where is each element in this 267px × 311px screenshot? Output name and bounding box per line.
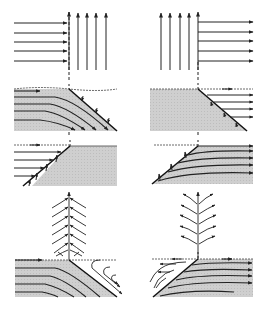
figure-svg: [0, 0, 267, 311]
flow-line: [70, 198, 86, 208]
flow-line: [181, 205, 197, 214]
boundary-arrow: [96, 108, 97, 113]
flow-line: [183, 194, 197, 204]
panel-4-inclined-boundary-outflow: [150, 83, 253, 135]
flow-line: [52, 198, 68, 208]
flow-line: [54, 243, 68, 253]
flow-line: [180, 215, 197, 224]
panel-8-diverging-herringbone: [180, 192, 216, 262]
diagram-figure: [0, 0, 267, 311]
flow-line: [52, 207, 68, 217]
flow-line: [199, 215, 216, 224]
panel-2-vertical-to-uniform: [161, 12, 253, 80]
panel-5-inflow-inclined-face: [14, 140, 117, 186]
flow-line: [70, 243, 84, 253]
flow-line: [199, 226, 216, 234]
flow-line: [70, 250, 82, 256]
flow-line: [52, 234, 68, 244]
flow-line: [52, 225, 68, 235]
flow-line: [52, 216, 68, 226]
panel-1-uniform-to-vertical: [14, 12, 106, 80]
flow-line: [181, 236, 197, 244]
flow-line: [70, 207, 86, 217]
flow-line: [199, 236, 215, 244]
flow-line: [70, 225, 86, 235]
boundary-arrow: [108, 118, 109, 123]
flow-line: [199, 194, 213, 204]
flow-line: [70, 234, 86, 244]
panel-7-converging-herringbone: [52, 192, 86, 262]
flow-line: [199, 205, 215, 214]
panel-6-curved-flow-from-face: [152, 140, 253, 184]
panel-3-inclined-boundary-flow: [14, 84, 117, 135]
flow-line: [180, 226, 197, 234]
flow-line: [70, 216, 86, 226]
panel-10-block-with-bent-flow: [150, 252, 253, 297]
panel-9-block-with-bent-flow: [15, 252, 122, 297]
